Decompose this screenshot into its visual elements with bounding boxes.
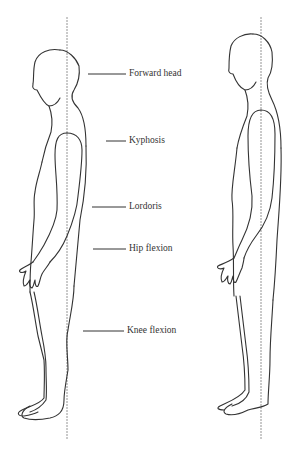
left-figure-outline xyxy=(18,50,86,420)
label-leader-lines xyxy=(83,74,126,331)
posture-diagram: Forward head Kyphosis Lordoris Hip flexi… xyxy=(0,0,296,453)
label-kyphosis: Kyphosis xyxy=(129,136,165,146)
label-forward-head: Forward head xyxy=(129,69,182,79)
right-figure-outline xyxy=(217,34,281,415)
label-hip-flexion: Hip flexion xyxy=(129,244,173,254)
label-knee-flexion: Knee flexion xyxy=(127,326,176,336)
label-lordoris: Lordoris xyxy=(129,202,162,212)
